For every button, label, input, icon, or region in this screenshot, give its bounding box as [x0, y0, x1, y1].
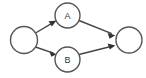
edge-b-to-end-line	[79, 46, 112, 54]
node-b-label: B	[64, 55, 70, 65]
edge-start-to-b	[36, 47, 57, 57]
node-end[interactable]	[116, 27, 142, 53]
node-group: A B	[11, 3, 143, 72]
node-start[interactable]	[11, 27, 38, 54]
node-b[interactable]: B	[55, 47, 80, 72]
node-start-circle[interactable]	[11, 27, 38, 54]
graph-canvas: A B	[0, 0, 146, 78]
graph-diagram: A B	[0, 0, 146, 78]
edge-start-to-a	[36, 21, 57, 33]
node-end-circle[interactable]	[116, 27, 142, 53]
edge-a-to-end-line	[79, 21, 112, 34]
arrowhead-into-a	[49, 21, 57, 27]
edge-a-to-end	[79, 21, 115, 39]
edge-b-to-end	[79, 44, 115, 55]
node-a-label: A	[64, 11, 70, 21]
node-a[interactable]: A	[55, 3, 80, 28]
arrowhead-into-end-from-b	[108, 44, 116, 50]
